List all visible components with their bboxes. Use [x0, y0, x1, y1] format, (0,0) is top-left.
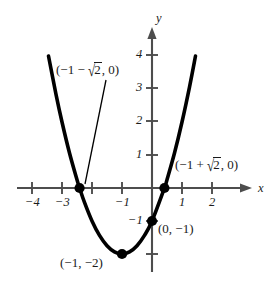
point-vertex — [117, 249, 127, 259]
x-axis-label: x — [258, 182, 264, 195]
x-tick-label-neg3: −3 — [55, 196, 70, 209]
y-intercept-label: (0, −1) — [158, 222, 194, 235]
vertex-label: (−1, −2) — [60, 256, 103, 269]
point-left-root — [74, 183, 84, 193]
y-tick-label-3: 3 — [136, 81, 142, 94]
y-tick-label-1: 1 — [136, 148, 142, 161]
left-root-label-close: , 0) — [102, 62, 119, 77]
point-y-intercept — [147, 216, 157, 226]
right-root-label: (−1 + √2, 0) — [175, 157, 238, 172]
y-tick-label-2: 2 — [136, 114, 142, 127]
right-root-radicand: 2 — [213, 157, 221, 172]
left-root-radicand: 2 — [94, 62, 102, 77]
left-root-leader-line — [85, 80, 106, 184]
y-tick-label-neg1: −1 — [128, 214, 143, 227]
left-root-label-open: (−1 − — [56, 62, 88, 77]
y-axis — [147, 27, 156, 272]
radical-sign-icon: √ — [88, 62, 95, 78]
x-tick-label-1: 1 — [179, 196, 185, 209]
x-tick-label-neg1: −1 — [115, 196, 130, 209]
y-tick-label-4: 4 — [136, 48, 142, 61]
y-axis-label: y — [156, 12, 162, 25]
x-tick-label-2: 2 — [209, 196, 215, 209]
right-root-label-open: (−1 + — [175, 157, 207, 172]
plot-canvas — [0, 0, 279, 283]
parabola-figure: x y −4 −3 −1 1 2 4 3 2 1 −1 (−1 − √2, 0)… — [0, 0, 279, 283]
x-tick-label-neg4: −4 — [25, 196, 40, 209]
radical-sign-icon: √ — [207, 157, 214, 173]
point-right-root — [159, 183, 169, 193]
right-root-label-close: , 0) — [221, 157, 238, 172]
x-axis — [17, 183, 252, 192]
left-root-label: (−1 − √2, 0) — [56, 62, 119, 77]
